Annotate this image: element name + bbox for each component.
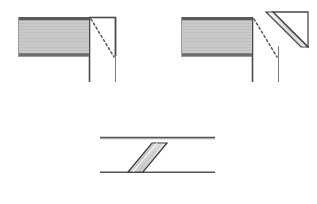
- p2-vertical-member: [252, 17, 279, 82]
- p1-horizontal-member: [18, 17, 89, 57]
- technical-figure: [0, 0, 317, 204]
- p1-vertical-member: [89, 17, 116, 82]
- p2-horizontal-member: [181, 17, 252, 57]
- figure-canvas: [0, 0, 317, 204]
- panel-3-strip-with-mitre-cut: [100, 137, 215, 172]
